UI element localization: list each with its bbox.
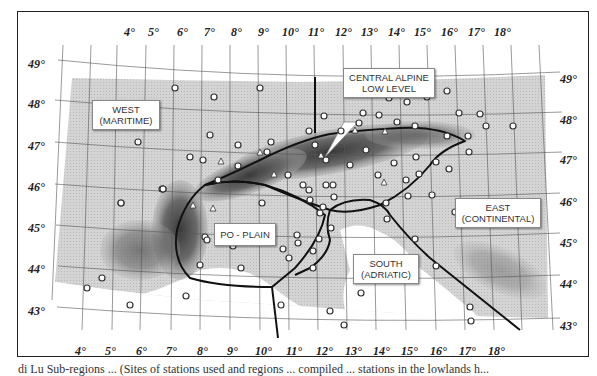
svg-text:11°: 11°: [286, 344, 302, 358]
svg-text:15°: 15°: [414, 25, 431, 39]
svg-text:8°: 8°: [197, 344, 208, 358]
svg-text:44°: 44°: [27, 262, 45, 276]
region-label-west: WEST (MARITIME): [92, 100, 160, 130]
svg-text:13°: 13°: [345, 344, 362, 358]
region-south-line1: SOUTH: [359, 258, 413, 269]
svg-text:16°: 16°: [441, 25, 458, 39]
region-east-line1: EAST: [461, 202, 535, 213]
svg-text:46°: 46°: [559, 195, 577, 209]
svg-text:6°: 6°: [136, 344, 147, 358]
svg-text:15°: 15°: [401, 344, 418, 358]
region-west-line2: (MARITIME): [98, 115, 154, 126]
svg-text:49°: 49°: [27, 57, 45, 71]
region-central-line1: CENTRAL ALPINE: [349, 72, 429, 83]
svg-text:6°: 6°: [177, 25, 188, 39]
svg-text:14°: 14°: [388, 25, 405, 39]
region-east-line2: (CONTINENTAL): [461, 213, 535, 224]
svg-text:11°: 11°: [308, 25, 324, 39]
svg-text:18°: 18°: [488, 344, 505, 358]
svg-text:5°: 5°: [148, 25, 159, 39]
longitude-labels-bottom: 4° 5° 6° 7° 8° 9° 10° 11° 12° 13° 14° 15…: [74, 344, 505, 358]
svg-text:12°: 12°: [316, 344, 333, 358]
region-label-south: SOUTH (ADRIATIC): [353, 254, 419, 284]
svg-text:43°: 43°: [27, 304, 45, 318]
svg-text:48°: 48°: [559, 113, 577, 127]
svg-text:49°: 49°: [559, 72, 577, 86]
svg-text:7°: 7°: [204, 25, 215, 39]
figure-caption-fragment: di Lu Sub-regions ... (Sites of stations…: [18, 362, 597, 376]
svg-text:7°: 7°: [166, 344, 177, 358]
svg-text:17°: 17°: [459, 344, 476, 358]
svg-text:45°: 45°: [559, 236, 577, 250]
svg-text:45°: 45°: [27, 221, 45, 235]
region-label-central-alpine: CENTRAL ALPINE LOW LEVEL: [343, 68, 435, 98]
svg-text:17°: 17°: [468, 25, 485, 39]
svg-text:18°: 18°: [494, 25, 511, 39]
svg-text:10°: 10°: [282, 25, 299, 39]
latitude-labels-right: 49° 48° 47° 46° 45° 44° 43°: [559, 72, 577, 333]
svg-text:4°: 4°: [74, 344, 86, 358]
svg-text:13°: 13°: [361, 25, 378, 39]
region-south-line2: (ADRIATIC): [359, 269, 413, 280]
svg-text:46°: 46°: [27, 180, 45, 194]
latitude-labels-left: 49° 48° 47° 46° 45° 44° 43°: [27, 57, 45, 318]
svg-text:9°: 9°: [227, 344, 238, 358]
svg-text:43°: 43°: [559, 319, 577, 333]
region-label-po-plain: PO - PLAIN: [214, 223, 276, 246]
svg-text:44°: 44°: [559, 277, 577, 291]
svg-text:8°: 8°: [231, 25, 242, 39]
svg-text:4°: 4°: [123, 25, 135, 39]
svg-text:47°: 47°: [27, 139, 45, 153]
region-west-line1: WEST: [98, 104, 154, 115]
region-po-line1: PO - PLAIN: [220, 229, 270, 240]
svg-text:48°: 48°: [27, 97, 45, 111]
region-central-line2: LOW LEVEL: [349, 83, 429, 94]
svg-text:5°: 5°: [105, 344, 116, 358]
svg-text:12°: 12°: [335, 25, 352, 39]
svg-text:10°: 10°: [255, 344, 272, 358]
svg-text:9°: 9°: [258, 25, 269, 39]
longitude-labels-top: 4° 5° 6° 7° 8° 9° 10° 11° 12° 13° 14° 15…: [123, 25, 511, 39]
map-canvas: 4° 5° 6° 7° 8° 9° 10° 11° 12° 13° 14° 15…: [0, 0, 597, 376]
region-label-east: EAST (CONTINENTAL): [455, 198, 541, 228]
svg-text:47°: 47°: [559, 153, 577, 167]
svg-text:16°: 16°: [430, 344, 447, 358]
svg-text:14°: 14°: [373, 344, 390, 358]
